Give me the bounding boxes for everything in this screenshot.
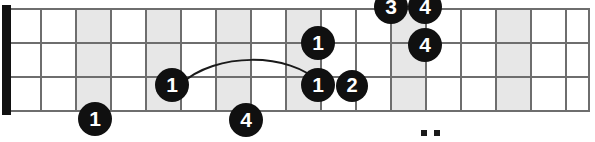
fret-line-1 bbox=[40, 8, 42, 111]
fretboard-diagram: 1 1 4 1 1 2 3 4 4 bbox=[0, 0, 595, 142]
string-line-1 bbox=[10, 42, 590, 44]
note-dot-8-label: 4 bbox=[419, 0, 431, 17]
fret-line-7 bbox=[250, 8, 252, 111]
inlay-marker-left bbox=[421, 130, 427, 136]
inlay-marker-right bbox=[434, 130, 440, 136]
note-dot-2-label: 1 bbox=[166, 74, 178, 95]
note-dot-9[interactable]: 4 bbox=[408, 28, 442, 62]
note-dot-1-label: 1 bbox=[89, 108, 101, 129]
note-dot-7-label: 3 bbox=[385, 0, 397, 17]
shaded-fret-15 bbox=[495, 8, 530, 111]
fret-line-3 bbox=[110, 8, 112, 111]
string-line-2 bbox=[10, 76, 590, 78]
fret-line-2 bbox=[75, 8, 77, 111]
fret-line-15 bbox=[530, 8, 532, 111]
shaded-fret-7 bbox=[215, 8, 250, 111]
note-dot-1[interactable]: 1 bbox=[78, 102, 112, 136]
note-dot-2[interactable]: 1 bbox=[155, 68, 189, 102]
note-dot-6-label: 2 bbox=[346, 75, 357, 95]
note-dot-5[interactable]: 1 bbox=[301, 68, 335, 102]
fret-line-16 bbox=[565, 8, 567, 111]
note-dot-9-label: 4 bbox=[419, 34, 431, 55]
fret-line-6 bbox=[215, 8, 217, 111]
fret-line-8 bbox=[285, 8, 287, 111]
note-dot-3-label: 4 bbox=[240, 109, 252, 130]
note-dot-6[interactable]: 2 bbox=[336, 70, 368, 102]
note-dot-4[interactable]: 1 bbox=[301, 26, 335, 60]
fret-line-13 bbox=[460, 8, 462, 111]
fret-line-14 bbox=[495, 8, 497, 111]
fret-line-4 bbox=[145, 8, 147, 111]
note-dot-5-label: 1 bbox=[312, 74, 324, 95]
shaded-fret-3 bbox=[75, 8, 110, 111]
nut bbox=[2, 5, 11, 115]
string-line-0 bbox=[10, 8, 590, 10]
note-dot-4-label: 1 bbox=[312, 32, 324, 53]
fret-line-17 bbox=[588, 8, 590, 111]
note-dot-3[interactable]: 4 bbox=[229, 103, 263, 137]
